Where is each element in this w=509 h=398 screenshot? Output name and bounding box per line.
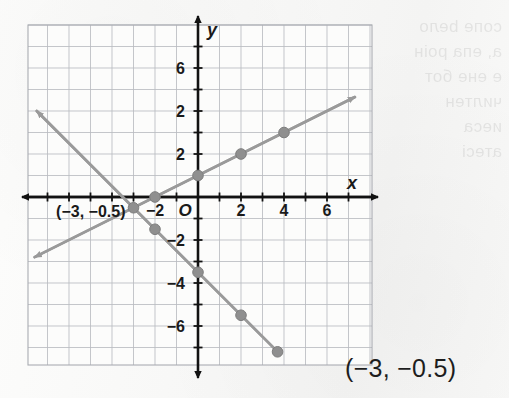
- data-point: [150, 192, 161, 203]
- answer-coordinate-text: (−3, −0.5): [345, 354, 456, 383]
- x-tick-label: 2: [237, 202, 246, 219]
- y-tick-label: 2: [176, 146, 185, 163]
- data-point: [150, 224, 161, 235]
- coordinate-plane-figure: −2246O622−2−4−6yx(−3, −0.5): [0, 0, 400, 398]
- data-point: [193, 170, 204, 181]
- data-point: [236, 310, 247, 321]
- intersection-annotation: (−3, −0.5): [56, 203, 125, 220]
- x-tick-label: 6: [323, 202, 332, 219]
- y-tick-label: 2: [176, 103, 185, 120]
- grid-lines: [28, 25, 372, 365]
- data-point: [272, 347, 283, 358]
- y-tick-label: −4: [167, 275, 185, 292]
- coordinate-plane-svg: −2246O622−2−4−6yx(−3, −0.5): [0, 0, 400, 398]
- y-tick-label: −2: [167, 232, 185, 249]
- data-point: [128, 202, 139, 213]
- origin-label: O: [178, 201, 191, 220]
- data-point: [236, 149, 247, 160]
- x-tick-label: −2: [146, 202, 164, 219]
- x-axis-title: x: [346, 173, 358, 193]
- data-point: [193, 267, 204, 278]
- y-tick-label: −6: [167, 318, 185, 335]
- x-tick-label: 4: [280, 202, 289, 219]
- y-axis-title: y: [206, 20, 218, 40]
- y-tick-label: 6: [176, 60, 185, 77]
- data-point: [279, 127, 290, 138]
